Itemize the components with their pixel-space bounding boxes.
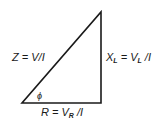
impedance-triangle-diagram: Z = V/I XL = VL /I R = VR /I ϕ (0, 0, 167, 127)
reactance-label: XL = VL /I (105, 51, 151, 64)
phase-angle-label: ϕ (37, 91, 42, 101)
resistance-label: R = VR /I (41, 106, 83, 119)
hypotenuse-label: Z = V/I (11, 51, 45, 63)
